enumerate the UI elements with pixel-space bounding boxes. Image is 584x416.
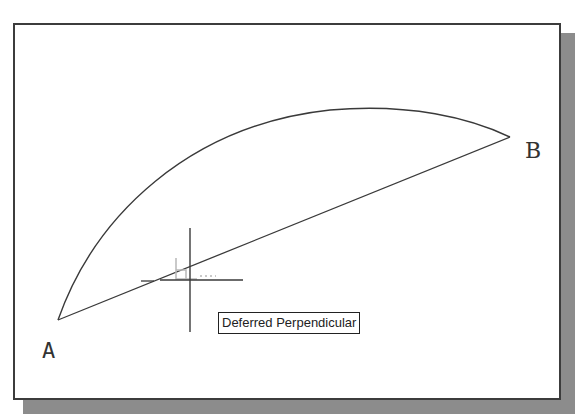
line-ab[interactable] [58, 137, 510, 320]
drawing-canvas[interactable] [0, 0, 584, 416]
point-b-label: B [525, 140, 541, 162]
osnap-tooltip: Deferred Perpendicular [218, 312, 360, 334]
point-a-label: A [42, 340, 55, 362]
arc[interactable] [58, 108, 510, 320]
perpendicular-snap-icon [176, 258, 216, 279]
